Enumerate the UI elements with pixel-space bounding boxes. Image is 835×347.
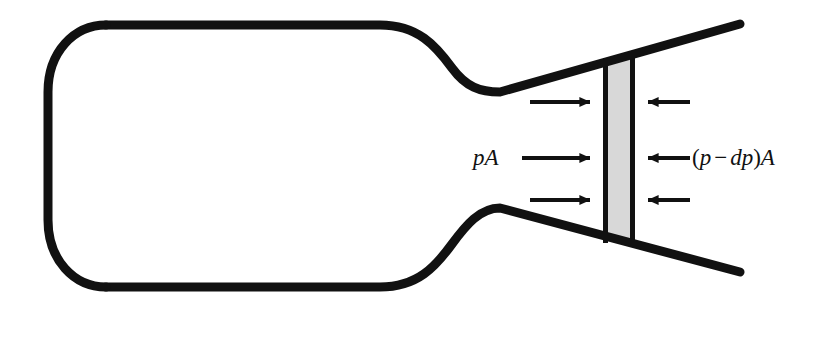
- label-right-open-paren: (: [692, 145, 700, 170]
- right-pressure-arrows: [648, 102, 690, 200]
- label-right-close-paren: ): [753, 145, 761, 170]
- control-volume-slab-fill: [606, 60, 632, 241]
- label-left-variable-p: p: [473, 145, 485, 170]
- reservoir-left-cap: [48, 25, 106, 287]
- left-pressure-arrows: [522, 102, 590, 200]
- label-upstream-pressure-force: pA: [473, 146, 499, 169]
- label-downstream-pressure-force: (p−dp)A: [692, 146, 775, 169]
- label-left-variable-A: A: [485, 145, 499, 170]
- label-right-variable-p: p: [700, 145, 712, 170]
- label-right-variable-A: A: [761, 145, 775, 170]
- control-volume-slab-group: [606, 58, 633, 243]
- label-right-minus-operator: −: [711, 145, 730, 170]
- nozzle-pressure-force-figure: pA (p−dp)A: [0, 0, 835, 347]
- nozzle-diagram-canvas: [0, 0, 835, 347]
- nozzle-upper-wall: [106, 24, 740, 92]
- label-right-differential-dp: dp: [730, 145, 753, 170]
- nozzle-lower-wall: [106, 208, 740, 287]
